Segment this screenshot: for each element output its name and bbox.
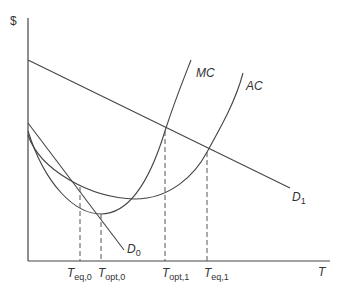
d1-label: D1	[292, 190, 306, 206]
tick-topt0: Topt,0	[98, 266, 125, 282]
tick-topt0-sub: opt,0	[105, 272, 125, 282]
tick-topt1: Topt,1	[162, 266, 189, 282]
d0-label: D0	[127, 242, 141, 258]
cost-demand-diagram: $ T MC AC D1 D0 Teq,0 Topt,0 Topt,1 Teq,…	[0, 0, 348, 290]
average-cost-curve	[28, 73, 243, 199]
d1-main: D	[292, 190, 301, 204]
y-axis-label: $	[10, 14, 17, 28]
tick-teq0-sub: eq,0	[74, 272, 92, 282]
d0-main: D	[127, 242, 136, 256]
tick-teq1: Teq,1	[204, 266, 229, 282]
tick-teq1-sub: eq,1	[211, 272, 229, 282]
marginal-cost-curve	[28, 60, 191, 214]
mc-label: MC	[196, 66, 215, 80]
demand-curve-d0	[28, 123, 124, 250]
tick-topt1-sub: opt,1	[169, 272, 189, 282]
ac-label: AC	[245, 79, 263, 93]
tick-teq0: Teq,0	[67, 266, 92, 282]
d1-sub: 1	[301, 196, 306, 206]
d0-sub: 0	[136, 248, 141, 258]
x-axis-label: T	[318, 265, 327, 279]
